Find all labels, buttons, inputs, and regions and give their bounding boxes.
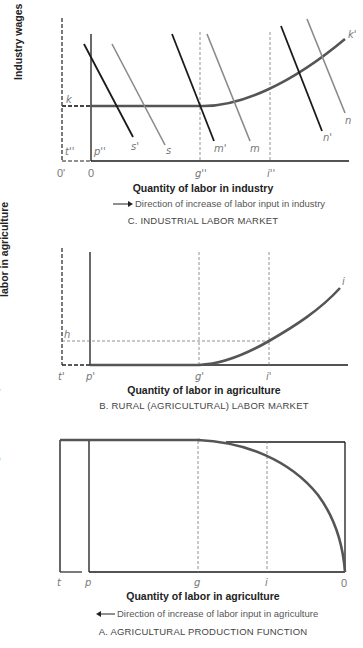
demand-curve-m-prime bbox=[172, 34, 214, 141]
tick-t-prime: t' bbox=[58, 371, 65, 382]
label-n-prime: n' bbox=[323, 132, 332, 143]
label-m-prime: m' bbox=[214, 143, 227, 154]
panel-a-caption: A. AGRICULTURAL PRODUCTION FUNCTION bbox=[99, 626, 308, 637]
panel-a-x-axis-label: Quantity of labor in agriculture bbox=[126, 590, 280, 602]
tick-g: g bbox=[194, 577, 200, 588]
panel-c-industrial-labor-market: Industry wages k k' t'' p'' s' s m' m n'… bbox=[12, 3, 357, 226]
marginal-product-curve bbox=[90, 288, 340, 365]
label-curve-i: i bbox=[342, 276, 345, 287]
panel-b-y-axis-label-3: labor in agriculture bbox=[0, 202, 10, 297]
tick-p-prime: p' bbox=[85, 371, 95, 382]
demand-curve-m bbox=[207, 34, 250, 141]
tick-g-double-prime: g'' bbox=[195, 168, 207, 179]
label-k: k bbox=[66, 94, 73, 105]
right-arrowhead-icon bbox=[128, 201, 133, 207]
label-k-prime: k' bbox=[348, 29, 357, 40]
panel-b-x-axis-label: Quantity of labor in agriculture bbox=[127, 384, 281, 396]
lewis-model-diagram: Industry wages k k' t'' p'' s' s m' m n'… bbox=[0, 0, 363, 648]
tick-origin: 0 bbox=[88, 167, 94, 179]
label-t-double-prime: t'' bbox=[65, 146, 74, 157]
left-arrowhead-icon bbox=[96, 611, 101, 617]
tick-p: p bbox=[84, 577, 91, 588]
tick-origin-a: 0 bbox=[341, 577, 347, 589]
tick-t: t bbox=[57, 577, 62, 588]
panel-a-direction-text: Direction of increase of labor input in … bbox=[117, 608, 318, 619]
labor-supply-curve-k bbox=[91, 39, 345, 106]
tick-g-prime: g' bbox=[195, 371, 204, 382]
panel-b-caption: B. RURAL (AGRICULTURAL) LABOR MARKET bbox=[99, 400, 308, 411]
panel-b-rural-labor-market: Marginal product of (subsistence wage) l… bbox=[0, 199, 348, 412]
label-s-prime: s' bbox=[131, 141, 139, 152]
tick-origin-prime: 0' bbox=[57, 167, 65, 179]
demand-curve-s bbox=[112, 44, 165, 145]
label-m: m bbox=[250, 143, 260, 154]
label-h: h bbox=[64, 329, 70, 340]
panel-c-caption: C. INDUSTRIAL LABOR MARKET bbox=[128, 215, 279, 226]
label-s: s bbox=[166, 145, 171, 156]
panel-c-x-axis-label: Quantity of labor in industry bbox=[133, 182, 274, 194]
label-n: n bbox=[345, 115, 351, 126]
demand-curve-n bbox=[307, 19, 345, 113]
panel-a-direction: Direction of increase of labor input in … bbox=[96, 608, 318, 619]
panel-a-production-function: Total agricultural output t p g i 0 Quan… bbox=[0, 375, 347, 637]
panel-c-y-axis-label: Industry wages bbox=[12, 3, 24, 80]
label-p-double-prime: p'' bbox=[93, 146, 106, 157]
tick-i: i bbox=[265, 577, 268, 588]
total-output-curve bbox=[198, 440, 345, 572]
tick-i-double-prime: i'' bbox=[267, 168, 275, 179]
tick-i-prime: i' bbox=[266, 371, 272, 382]
panel-c-direction: Direction of increase of labor input in … bbox=[113, 198, 325, 209]
panel-c-direction-text: Direction of increase of labor input in … bbox=[135, 198, 325, 209]
